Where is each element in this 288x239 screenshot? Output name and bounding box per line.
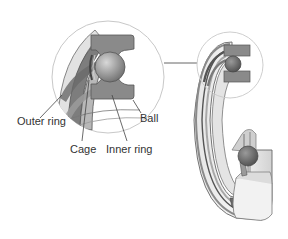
bearing-diagram: Outer ring Cage Inner ring Ball [0, 0, 288, 239]
label-ball: Ball [140, 112, 158, 124]
label-cage: Cage [70, 143, 96, 155]
label-outer-ring: Outer ring [17, 115, 66, 127]
label-inner-ring: Inner ring [106, 143, 152, 155]
